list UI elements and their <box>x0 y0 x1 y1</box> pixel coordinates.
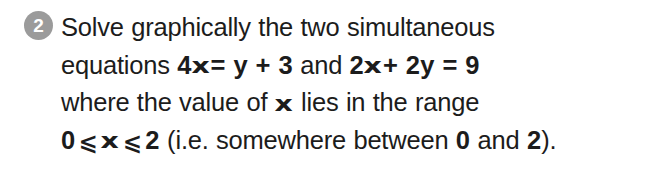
line-4-note-open: (i.e. somewhere between <box>160 126 456 154</box>
line-3-prefix: where the value of <box>61 88 275 116</box>
question-line-3: where the value of x lies in the range <box>61 84 661 122</box>
question-text: Solve graphically the two simultaneous e… <box>61 9 661 159</box>
note-value-two: 2 <box>527 126 541 154</box>
equation-one: 4x= y + 3 <box>177 51 293 79</box>
equation-two: 2x+ 2y = 9 <box>350 51 480 79</box>
question-number-badge: 2 <box>24 11 53 40</box>
question-line-2: equations 4x= y + 3 and 2x+ 2y = 9 <box>61 47 661 85</box>
less-than-or-equal-icon: ⩽ <box>78 129 97 155</box>
note-value-zero: 0 <box>456 126 470 154</box>
line-3-suffix: lies in the range <box>294 88 480 116</box>
variable-x-icon: x <box>274 87 292 122</box>
line-4-note-and: and <box>470 126 527 154</box>
less-than-or-equal-icon: ⩽ <box>123 129 142 155</box>
range-upper-bound: 2 <box>145 126 159 154</box>
range-expression: 0⩽x⩽2 <box>61 126 160 154</box>
line-2-joiner: and <box>293 51 350 79</box>
variable-x-icon: x <box>364 50 382 85</box>
range-lower-bound: 0 <box>61 126 75 154</box>
line-1-text: Solve graphically the two simultaneous <box>61 13 495 41</box>
variable-x-icon: x <box>100 125 118 160</box>
line-4-note-close: ). <box>541 126 556 154</box>
variable-x-icon: x <box>191 50 209 85</box>
line-2-prefix: equations <box>61 51 177 79</box>
question-block: 2 Solve graphically the two simultaneous… <box>0 0 665 181</box>
question-line-1: Solve graphically the two simultaneous <box>61 9 661 47</box>
question-line-4: 0⩽x⩽2 (i.e. somewhere between 0 and 2). <box>61 122 661 160</box>
